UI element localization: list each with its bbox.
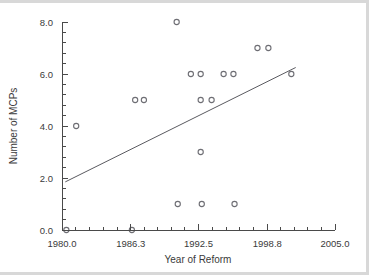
y-axis-ticks <box>62 22 68 230</box>
x-axis-tick-labels: 1980.01986.31992.51998.82005.0 <box>47 238 349 249</box>
data-point-marker <box>174 19 179 24</box>
x-axis-ticks <box>62 224 335 230</box>
y-axis-tick-label: 0.0 <box>40 225 53 236</box>
x-axis-tick-label: 1992.5 <box>184 238 213 249</box>
data-point-marker <box>255 45 260 50</box>
x-axis-tick-label: 1986.3 <box>116 238 145 249</box>
x-axis-tick-label: 1998.8 <box>253 238 282 249</box>
data-point-marker <box>188 71 193 76</box>
data-point-marker <box>141 97 146 102</box>
regression-line <box>65 68 295 182</box>
data-point-marker <box>232 201 237 206</box>
y-axis-tick-label: 2.0 <box>40 173 53 184</box>
data-point-marker <box>209 97 214 102</box>
y-axis-tick-label: 4.0 <box>40 121 53 132</box>
data-point-marker <box>133 97 138 102</box>
x-axis-title: Year of Reform <box>165 254 232 265</box>
data-point-marker <box>198 149 203 154</box>
data-point-marker <box>198 71 203 76</box>
scatter-plot-figure: 1980.01986.31992.51998.82005.0 0.02.04.0… <box>0 0 369 275</box>
top-edge-band <box>0 0 369 3</box>
data-point-marker <box>266 45 271 50</box>
y-axis-tick-label: 6.0 <box>40 69 53 80</box>
x-axis-tick-label: 1980.0 <box>47 238 76 249</box>
y-axis-tick-labels: 0.02.04.06.08.0 <box>40 17 53 236</box>
y-axis-tick-label: 8.0 <box>40 17 53 28</box>
plot-area <box>64 19 296 232</box>
x-axis-tick-label: 2005.0 <box>320 238 349 249</box>
trend-line <box>65 68 295 182</box>
y-axis-title: Number of MCPs <box>8 88 19 165</box>
data-point-marker <box>74 123 79 128</box>
data-point-marker <box>198 97 203 102</box>
data-point-marker <box>221 71 226 76</box>
axes <box>62 22 335 230</box>
data-point-marker <box>199 201 204 206</box>
plot-canvas: 1980.01986.31992.51998.82005.0 0.02.04.0… <box>0 0 369 275</box>
data-point-marker <box>175 201 180 206</box>
data-point-marker <box>289 71 294 76</box>
data-point-marker <box>231 71 236 76</box>
